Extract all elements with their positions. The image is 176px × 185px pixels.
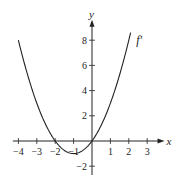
y-tick-label: 8 bbox=[82, 35, 87, 46]
y-tick-label: −2 bbox=[76, 161, 87, 172]
y-axis-label: y bbox=[88, 8, 94, 20]
y-tick-label: 4 bbox=[82, 85, 87, 96]
f-prime-curve bbox=[18, 33, 130, 154]
y-axis-arrow-icon bbox=[90, 20, 95, 27]
x-tick-label: 2 bbox=[126, 146, 131, 157]
y-tick-label: 2 bbox=[82, 110, 87, 121]
x-tick-label: −2 bbox=[50, 146, 61, 157]
chart: −4−3−2−1123−22468 f′ x y bbox=[0, 0, 176, 185]
x-tick-label: −3 bbox=[31, 146, 42, 157]
x-tick-label: −1 bbox=[68, 146, 79, 157]
x-axis-label: x bbox=[166, 135, 172, 147]
x-axis-arrow-icon bbox=[158, 139, 165, 144]
x-tick-label: 3 bbox=[145, 146, 150, 157]
y-tick-label: 6 bbox=[82, 60, 87, 71]
x-tick-label: −4 bbox=[13, 146, 24, 157]
curve-label: f′ bbox=[136, 33, 142, 47]
x-tick-label: 1 bbox=[108, 146, 113, 157]
